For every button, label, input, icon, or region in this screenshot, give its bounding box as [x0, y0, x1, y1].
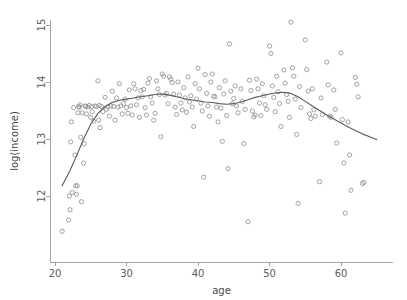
data-point — [227, 42, 231, 46]
data-point — [299, 106, 303, 110]
x-tick-label: 50 — [263, 268, 276, 279]
x-axis-ticks: 2030405060 — [49, 262, 348, 279]
data-point — [173, 105, 177, 109]
data-point — [270, 84, 274, 88]
data-point — [256, 87, 260, 91]
data-point — [82, 161, 86, 165]
data-point — [60, 229, 64, 233]
data-point — [292, 74, 296, 78]
data-point — [79, 135, 83, 139]
data-points-layer — [60, 20, 366, 233]
data-point — [68, 208, 72, 212]
data-point — [176, 80, 180, 84]
data-point — [154, 79, 158, 83]
data-point — [112, 104, 116, 108]
data-point — [166, 102, 170, 106]
data-point — [143, 106, 147, 110]
data-point — [255, 77, 259, 81]
data-point — [340, 118, 344, 122]
data-point — [74, 192, 78, 196]
data-point — [179, 101, 183, 105]
data-point — [295, 132, 299, 136]
data-point — [317, 180, 321, 184]
data-point — [156, 87, 160, 91]
data-point — [127, 88, 131, 92]
y-tick-label: 15 — [36, 19, 47, 32]
data-point — [229, 89, 233, 93]
data-point — [146, 81, 150, 85]
data-point — [79, 200, 83, 204]
data-point — [130, 113, 134, 117]
data-point — [84, 112, 88, 116]
data-point — [129, 104, 133, 108]
data-point — [76, 111, 80, 115]
data-point — [204, 91, 208, 95]
data-point — [277, 102, 281, 106]
x-tick-label: 60 — [335, 268, 348, 279]
data-point — [333, 107, 337, 111]
data-point — [296, 201, 300, 205]
data-point — [273, 110, 277, 114]
data-point — [297, 84, 301, 88]
data-point — [222, 92, 226, 96]
data-point — [120, 112, 124, 116]
data-point — [80, 111, 84, 115]
data-point — [236, 111, 240, 115]
data-point — [260, 82, 264, 86]
data-point — [339, 51, 343, 55]
scatter-plot-figure: 12131415 log(income) 2030405060 age — [0, 0, 407, 300]
data-point — [153, 111, 157, 115]
data-point — [71, 106, 75, 110]
data-point — [332, 88, 336, 92]
data-point — [239, 87, 243, 91]
data-point — [346, 120, 350, 124]
data-point — [216, 120, 220, 124]
x-tick-label: 30 — [120, 268, 133, 279]
data-point — [150, 101, 154, 105]
data-point — [206, 104, 210, 108]
data-point — [283, 81, 287, 85]
y-tick-label: 14 — [36, 76, 47, 89]
data-point — [202, 175, 206, 179]
data-point — [306, 89, 310, 93]
data-point — [263, 103, 267, 107]
data-point — [226, 167, 230, 171]
data-point — [243, 107, 247, 111]
data-point — [319, 96, 323, 100]
data-point — [192, 124, 196, 128]
data-point — [217, 86, 221, 90]
data-point — [279, 124, 283, 128]
data-point — [133, 87, 137, 91]
data-point — [232, 96, 236, 100]
data-point — [186, 75, 190, 79]
data-point — [290, 66, 294, 70]
data-point — [122, 102, 126, 106]
data-point — [137, 115, 141, 119]
data-point — [353, 75, 357, 79]
data-point — [342, 161, 346, 165]
data-point — [90, 110, 94, 114]
data-point — [134, 103, 138, 107]
data-point — [110, 89, 114, 93]
data-point — [107, 114, 111, 118]
data-point — [203, 72, 207, 76]
data-point — [200, 109, 204, 113]
data-point — [269, 51, 273, 55]
data-point — [286, 99, 290, 103]
data-point — [355, 82, 359, 86]
data-point — [70, 190, 74, 194]
data-point — [242, 141, 246, 145]
data-point — [98, 126, 102, 130]
data-point — [69, 140, 73, 144]
data-point — [313, 114, 317, 118]
data-point — [117, 82, 121, 86]
data-point — [272, 95, 276, 99]
data-point — [196, 66, 200, 70]
data-point — [152, 118, 156, 122]
data-point — [187, 100, 191, 104]
data-point — [190, 105, 194, 109]
data-point — [249, 88, 253, 92]
data-point — [267, 44, 271, 48]
data-point — [219, 106, 223, 110]
data-point — [309, 116, 313, 120]
